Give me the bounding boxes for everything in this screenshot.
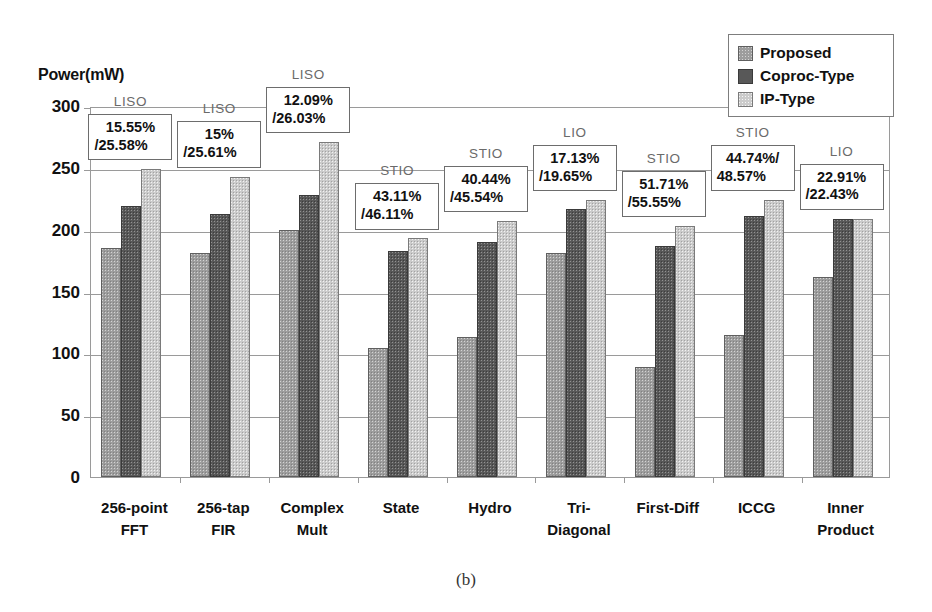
x-axis-label: 256-pointFFT [90,497,179,541]
bar-iptype[interactable] [675,226,695,477]
y-tick-mark [84,232,91,233]
annotation-callout: 15%/25.61% [177,121,261,167]
bar-proposed[interactable] [457,337,477,477]
bar-iptype[interactable] [141,169,161,477]
annotation-line-2: 48.57% [717,168,789,186]
annotation-line-1: 43.11% [361,188,433,206]
x-axis-label: InnerProduct [801,497,890,541]
bar-coproc[interactable] [833,219,853,477]
annotation-line-1: 51.71% [628,176,700,194]
annotation-line-1: 15.55% [94,119,166,137]
x-axis-label: Tri-Diagonal [534,497,623,541]
y-tick-label: 100 [28,345,80,362]
x-tick-mark [269,477,270,483]
bar-group [447,108,536,477]
legend-swatch-proposed [738,46,753,61]
bar-iptype[interactable] [319,142,339,477]
bar-iptype[interactable] [230,177,250,478]
bar-iptype[interactable] [764,200,784,477]
bar-coproc[interactable] [566,209,586,477]
x-tick-mark [447,477,448,483]
x-axis-label-line: FIR [179,519,268,541]
x-axis-label-line: State [357,497,446,519]
annotation-callout: 17.13%/19.65% [533,145,617,191]
legend-label-coproc-type: Coproc-Type [760,67,854,85]
x-axis-label: ComplexMult [268,497,357,541]
bar-coproc[interactable] [744,216,764,477]
io-type-caption: STIO [444,146,528,161]
io-type-caption: LISO [177,101,261,116]
annotation-callout: 22.91%/22.43% [800,164,884,210]
annotation-line-2: /25.61% [183,144,255,162]
legend-item-coproc-type[interactable]: Coproc-Type [738,67,884,85]
bar-proposed[interactable] [368,348,388,477]
x-axis-label-line: Tri- [534,497,623,519]
bar-proposed[interactable] [546,253,566,477]
annotation-line-2: /46.11% [361,206,433,224]
x-axis-label-line: 256-tap [179,497,268,519]
figure-container: Power(mW) 050100150200250300 15.55%/25.5… [0,0,932,612]
chart-legend: Proposed Coproc-Type IP-Type [728,34,894,117]
x-axis-label-line: Inner [801,497,890,519]
bar-coproc[interactable] [477,242,497,477]
bar-proposed[interactable] [101,248,121,477]
bar-proposed[interactable] [813,277,833,477]
bar-coproc[interactable] [655,246,675,477]
io-type-caption: LIO [800,144,884,159]
bar-iptype[interactable] [853,219,873,477]
x-axis-label-line: Mult [268,519,357,541]
figure-caption: (b) [0,570,932,590]
bar-iptype[interactable] [586,200,606,477]
bar-coproc[interactable] [210,214,230,477]
bar-iptype[interactable] [497,221,517,477]
x-axis-label-line: 256-point [90,497,179,519]
bar-group [269,108,358,477]
y-tick-mark [84,170,91,171]
annotation-callout: 15.55%/25.58% [88,114,172,160]
io-type-caption: LISO [88,94,172,109]
annotation-line-1: 40.44% [450,171,522,189]
y-tick-mark [84,355,91,356]
bar-proposed[interactable] [635,367,655,477]
annotation-line-1: 44.74%/ [717,150,789,168]
y-tick-label: 200 [28,222,80,239]
annotation-callout: 40.44%/45.54% [444,166,528,212]
annotation-callout: 12.09%/26.03% [266,87,350,133]
bar-coproc[interactable] [299,195,319,477]
io-type-caption: STIO [355,163,439,178]
y-tick-mark [84,294,91,295]
x-axis-label-line: Hydro [446,497,535,519]
x-axis-label-line: Product [801,519,890,541]
legend-swatch-coproc-type [738,69,753,84]
annotation-line-2: /55.55% [628,194,700,212]
bar-proposed[interactable] [279,230,299,477]
annotation-callout: 44.74%/48.57% [711,145,795,191]
legend-label-proposed: Proposed [760,44,831,62]
annotation-line-2: /19.65% [539,168,611,186]
annotation-callout: 43.11%/46.11% [355,183,439,229]
bar-coproc[interactable] [388,251,408,477]
legend-swatch-ip-type [738,92,753,107]
y-tick-mark [84,417,91,418]
annotation-line-1: 12.09% [272,92,344,110]
bar-iptype[interactable] [408,238,428,477]
x-axis-label-line: ICCG [712,497,801,519]
y-tick-label: 250 [28,160,80,177]
x-axis-label: State [357,497,446,519]
bar-group [91,108,180,477]
annotation-line-1: 17.13% [539,150,611,168]
y-tick-label: 0 [28,469,80,486]
bar-proposed[interactable] [190,253,210,477]
x-axis-label-line: First-Diff [623,497,712,519]
legend-item-ip-type[interactable]: IP-Type [738,90,884,108]
legend-item-proposed[interactable]: Proposed [738,44,884,62]
y-tick-label: 150 [28,284,80,301]
x-axis-label: Hydro [446,497,535,519]
y-tick-label: 50 [28,407,80,424]
io-type-caption: STIO [622,151,706,166]
io-type-caption: STIO [711,125,795,140]
bar-proposed[interactable] [724,335,744,477]
annotation-line-2: /45.54% [450,189,522,207]
bar-coproc[interactable] [121,206,141,477]
x-axis-label-line: Diagonal [534,519,623,541]
